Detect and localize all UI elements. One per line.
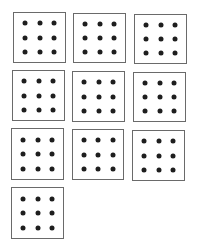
dot-icon: [96, 138, 101, 143]
dot-icon: [156, 167, 161, 172]
dot-icon: [110, 152, 115, 157]
dot-box-1: [13, 12, 66, 63]
dot-icon: [81, 138, 86, 143]
dot-box-6: [133, 72, 186, 122]
dot-icon: [157, 108, 162, 113]
dot-icon: [171, 167, 176, 172]
dot-icon: [21, 93, 26, 98]
dot-icon: [171, 139, 176, 144]
dot-icon: [51, 93, 56, 98]
dot-icon: [81, 80, 86, 85]
dot-icon: [20, 211, 25, 216]
dot-icon: [97, 36, 102, 41]
dot-icon: [35, 211, 40, 216]
dot-icon: [51, 107, 56, 112]
dot-icon: [172, 81, 177, 86]
dot-icon: [50, 166, 55, 171]
dot-icon: [50, 137, 55, 142]
dot-icon: [82, 49, 87, 54]
dot-icon: [21, 79, 26, 84]
dot-icon: [37, 49, 42, 54]
dot-icon: [143, 50, 148, 55]
dot-icon: [112, 49, 117, 54]
dot-icon: [52, 21, 57, 26]
dot-icon: [22, 21, 27, 26]
dot-box-8: [72, 129, 124, 180]
dot-icon: [52, 49, 57, 54]
dot-icon: [96, 108, 101, 113]
dot-icon: [81, 166, 86, 171]
dot-icon: [35, 137, 40, 142]
dot-icon: [158, 37, 163, 42]
dot-icon: [36, 107, 41, 112]
dot-icon: [20, 225, 25, 230]
dot-icon: [112, 22, 117, 27]
dot-icon: [112, 36, 117, 41]
dot-icon: [22, 35, 27, 40]
dot-icon: [37, 21, 42, 26]
dot-icon: [143, 23, 148, 28]
dot-icon: [50, 225, 55, 230]
dot-box-5: [72, 71, 125, 122]
dot-icon: [111, 108, 116, 113]
dot-box-7: [11, 128, 64, 180]
dot-icon: [81, 94, 86, 99]
dot-icon: [82, 22, 87, 27]
dot-icon: [141, 167, 146, 172]
dot-icon: [36, 93, 41, 98]
dot-icon: [172, 108, 177, 113]
dot-icon: [156, 139, 161, 144]
dot-icon: [157, 81, 162, 86]
dot-box-9: [132, 130, 185, 181]
dot-box-4: [12, 70, 65, 121]
dot-icon: [171, 153, 176, 158]
dot-icon: [157, 95, 162, 100]
dot-icon: [111, 94, 116, 99]
dot-icon: [143, 37, 148, 42]
dot-icon: [96, 94, 101, 99]
dot-icon: [96, 152, 101, 157]
dot-box-2: [73, 13, 126, 63]
dot-icon: [172, 95, 177, 100]
dot-icon: [142, 108, 147, 113]
dot-icon: [142, 81, 147, 86]
dot-icon: [110, 166, 115, 171]
dot-icon: [20, 166, 25, 171]
dot-box-10: [11, 187, 64, 239]
dot-icon: [81, 108, 86, 113]
dot-icon: [81, 152, 86, 157]
dot-icon: [21, 107, 26, 112]
dot-icon: [158, 50, 163, 55]
dot-icon: [97, 49, 102, 54]
dot-icon: [35, 152, 40, 157]
dot-icon: [22, 49, 27, 54]
dot-icon: [35, 166, 40, 171]
dot-icon: [97, 22, 102, 27]
dot-icon: [96, 80, 101, 85]
dot-icon: [111, 80, 116, 85]
dot-icon: [36, 79, 41, 84]
dot-icon: [173, 23, 178, 28]
dot-icon: [110, 138, 115, 143]
dot-box-3: [134, 14, 187, 64]
dot-icon: [173, 37, 178, 42]
dot-icon: [52, 35, 57, 40]
dot-icon: [158, 23, 163, 28]
dot-icon: [20, 196, 25, 201]
dot-icon: [20, 152, 25, 157]
dot-icon: [141, 153, 146, 158]
dot-icon: [82, 36, 87, 41]
dot-icon: [141, 139, 146, 144]
dot-icon: [50, 196, 55, 201]
dot-icon: [173, 50, 178, 55]
dot-icon: [50, 211, 55, 216]
dot-icon: [35, 225, 40, 230]
dot-icon: [51, 79, 56, 84]
dot-icon: [96, 166, 101, 171]
dot-icon: [50, 152, 55, 157]
dot-icon: [20, 137, 25, 142]
dot-icon: [142, 95, 147, 100]
dot-icon: [156, 153, 161, 158]
dot-icon: [37, 35, 42, 40]
dot-icon: [35, 196, 40, 201]
